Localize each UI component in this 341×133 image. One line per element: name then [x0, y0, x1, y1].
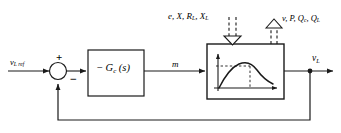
reference-input-label: vL ref	[10, 58, 24, 68]
manipulated-variable-label: m	[172, 60, 179, 69]
sum-plus-sign: +	[56, 52, 62, 63]
disturbance-output-label: v, P, Qc, QL	[282, 14, 320, 24]
summing-junction	[50, 63, 67, 80]
sum-minus-sign: −	[70, 73, 77, 85]
output-line	[284, 69, 333, 74]
output-label: vL	[312, 54, 320, 64]
disturbance-input-label: e, X, RL, XL	[168, 12, 209, 22]
block-diagram: vL ref + − − Gc (s) m vL e, X, RL, XL v,…	[0, 0, 341, 133]
controller-transfer-function-label: − Gc (s)	[97, 63, 130, 75]
disturbance-output-arrow	[266, 19, 282, 44]
disturbance-input-arrow	[224, 17, 241, 45]
